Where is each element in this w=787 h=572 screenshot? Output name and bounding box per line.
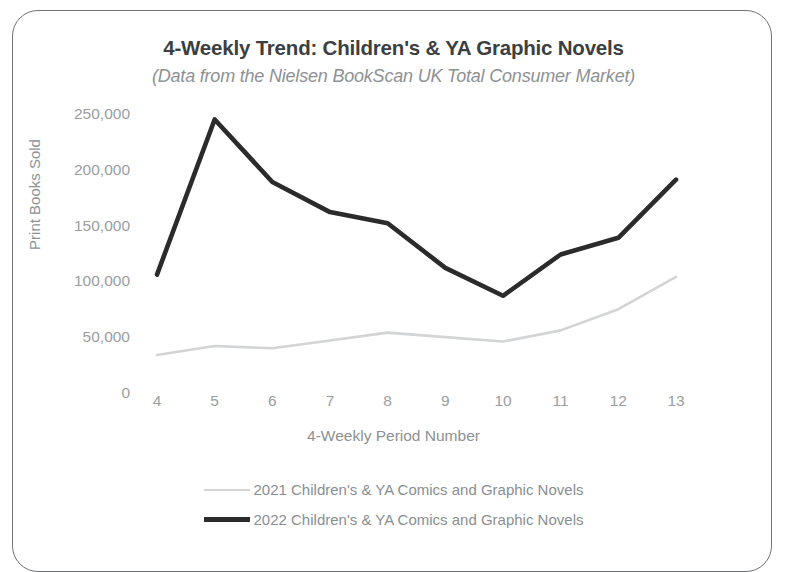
legend-label-2022: 2022 Children's & YA Comics and Graphic … xyxy=(254,511,584,528)
legend-label-2021: 2021 Children's & YA Comics and Graphic … xyxy=(254,481,584,498)
series-line-2022 xyxy=(157,119,676,295)
legend-item-2022: 2022 Children's & YA Comics and Graphic … xyxy=(0,511,787,528)
legend-item-2021: 2021 Children's & YA Comics and Graphic … xyxy=(0,481,787,498)
series-line-2021 xyxy=(157,277,676,355)
legend-swatch-2022-icon xyxy=(204,517,250,522)
legend-swatch-2021-icon xyxy=(204,489,250,491)
